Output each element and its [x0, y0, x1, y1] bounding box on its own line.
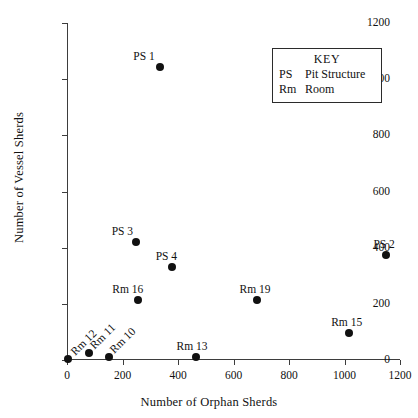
- y-tick-mark: [62, 304, 67, 305]
- x-tick-label: 1000: [333, 370, 356, 382]
- legend-entry-abbr: PS: [279, 67, 305, 82]
- y-tick-label: 600: [373, 186, 390, 198]
- data-point-label: PS 2: [373, 239, 394, 251]
- data-point[interactable]: [253, 296, 261, 304]
- data-point-label: Rm 13: [177, 341, 208, 353]
- data-point-label: PS 3: [112, 226, 133, 238]
- y-tick-label: 1200: [367, 17, 390, 29]
- y-tick-mark: [62, 23, 67, 24]
- legend-entry-term: Room: [305, 82, 375, 97]
- y-tick-mark: [62, 248, 67, 249]
- data-point[interactable]: [168, 263, 176, 271]
- y-axis-title: Number of Vessel Sherds: [12, 63, 27, 293]
- data-point[interactable]: [134, 296, 142, 304]
- x-tick-label: 200: [114, 370, 131, 382]
- y-tick-mark: [62, 192, 67, 193]
- x-tick-mark: [123, 360, 124, 365]
- legend-entry: PSPit Structure: [279, 67, 375, 82]
- x-tick-mark: [234, 360, 235, 365]
- x-tick-label: 0: [64, 370, 70, 382]
- legend-key-box: KEY PSPit StructureRmRoom: [272, 48, 382, 103]
- data-point[interactable]: [105, 353, 113, 361]
- data-point-label: Rm 15: [331, 317, 362, 329]
- data-point[interactable]: [85, 349, 93, 357]
- data-point[interactable]: [64, 355, 72, 363]
- legend-title: KEY: [279, 52, 375, 67]
- x-tick-mark: [345, 360, 346, 365]
- y-axis-line: [67, 23, 68, 360]
- x-tick-label: 600: [225, 370, 242, 382]
- x-tick-label: 800: [280, 370, 297, 382]
- data-point[interactable]: [382, 251, 390, 259]
- data-point[interactable]: [345, 329, 353, 337]
- data-point[interactable]: [132, 238, 140, 246]
- x-tick-label: 1200: [389, 370, 412, 382]
- legend-entry-abbr: Rm: [279, 82, 305, 97]
- y-tick-label: 200: [373, 298, 390, 310]
- x-tick-mark: [289, 360, 290, 365]
- y-tick-mark: [62, 135, 67, 136]
- legend-entry-term: Pit Structure: [305, 67, 375, 82]
- data-point-label: Rm 19: [240, 284, 271, 296]
- data-point-label: PS 4: [156, 251, 177, 263]
- y-tick-label: 0: [384, 354, 390, 366]
- legend-entry: RmRoom: [279, 82, 375, 97]
- data-point-label: Rm 16: [112, 284, 143, 296]
- x-tick-mark: [178, 360, 179, 365]
- x-tick-mark: [400, 360, 401, 365]
- data-point-label: PS 1: [133, 51, 154, 63]
- scatter-plot-figure: 020040060080010001200 020040060080010001…: [0, 0, 418, 418]
- y-tick-label: 800: [373, 129, 390, 141]
- legend-entries: PSPit StructureRmRoom: [279, 67, 375, 97]
- x-axis-title: Number of Orphan Sherds: [0, 395, 418, 410]
- data-point[interactable]: [156, 63, 164, 71]
- y-tick-mark: [62, 79, 67, 80]
- x-tick-label: 400: [169, 370, 186, 382]
